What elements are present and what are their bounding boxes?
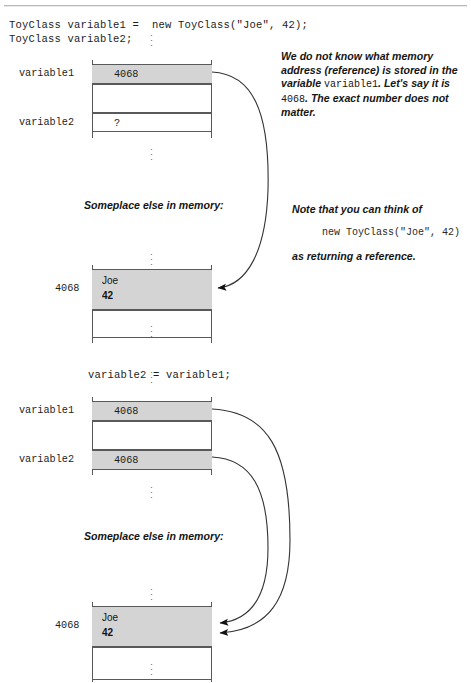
figure-page: ToyClass variable1 = new ToyClass("Joe",…: [0, 0, 471, 683]
reference-arrows: [0, 0, 471, 683]
arrow-variable1-to-object-2: [212, 409, 290, 633]
arrow-variable2-to-object-2: [212, 457, 268, 623]
arrow-variable1-to-object-1: [212, 72, 268, 288]
